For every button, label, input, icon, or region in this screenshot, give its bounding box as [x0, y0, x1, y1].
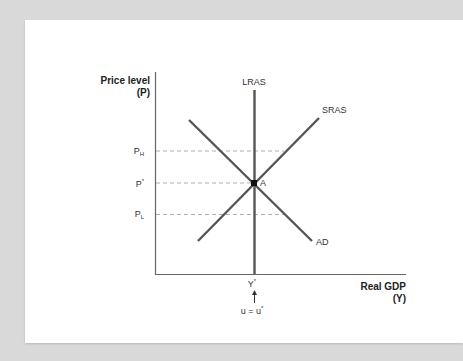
ad-as-diagram: Price level (P) PH P* PL LRAS SRAS AD A … [0, 0, 463, 361]
sras-label: SRAS [322, 105, 347, 115]
pl-label: PL [135, 209, 145, 220]
ph-label: PH [134, 146, 144, 157]
unemployment-annotation: u = u* [241, 305, 264, 316]
y-axis-title-line1: Price level [101, 75, 151, 86]
sras-curve [198, 118, 319, 241]
arrow-up-icon [252, 290, 257, 295]
x-axis-title-line2: (Y) [393, 293, 406, 304]
x-axis-title-line1: Real GDP [360, 281, 406, 292]
ad-label: AD [316, 237, 329, 247]
lras-label: LRAS [242, 77, 266, 87]
equilibrium-label: A [260, 178, 266, 188]
equilibrium-point [251, 180, 257, 186]
pstar-label: P* [136, 178, 145, 189]
ystar-label: Y* [248, 278, 257, 289]
y-axis-title-line2: (P) [137, 87, 150, 98]
ad-curve [189, 120, 312, 241]
